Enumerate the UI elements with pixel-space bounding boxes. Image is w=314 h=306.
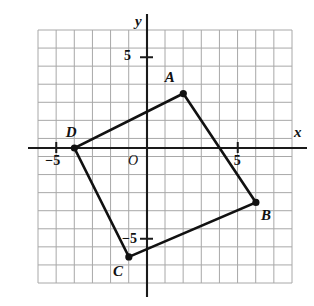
y-axis-tick-label-5: 5 — [124, 49, 131, 63]
y-axis-label: y — [135, 14, 142, 29]
vertex-label-a: A — [165, 70, 175, 85]
axes — [28, 14, 307, 297]
vertex-label-b: B — [261, 208, 271, 223]
x-axis-label: x — [294, 125, 302, 140]
origin-label: O — [128, 154, 138, 168]
y-axis-tick-label-minus-5: −5 — [122, 232, 137, 246]
vertex-label-d: D — [66, 125, 77, 140]
x-axis-tick-label-5: 5 — [234, 154, 241, 168]
vertex-label-c: C — [113, 264, 123, 279]
x-axis-tick-label-minus-5: −5 — [45, 154, 60, 168]
grid-lines — [38, 30, 292, 283]
coordinate-plane-figure: y x 5 −5 5 −5 O A B C D — [0, 0, 314, 306]
